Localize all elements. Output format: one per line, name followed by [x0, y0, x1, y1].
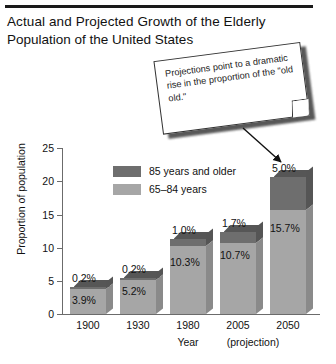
chart-plot-area: 25 20 15 10 5 0 Proportion of population…	[0, 0, 336, 364]
bar-1980-seg-85plus	[170, 239, 206, 246]
y-tick-label-20: 20	[24, 175, 54, 187]
y-axis-line	[62, 148, 63, 315]
y-tick-mark-10	[57, 248, 62, 249]
y-tick-mark-0	[57, 314, 62, 315]
bar-2005	[220, 232, 256, 314]
y-tick-label-15: 15	[24, 209, 54, 221]
legend-swatch-65-84	[113, 184, 141, 195]
bar-2050-label-85plus: 5.0%	[272, 162, 296, 174]
y-tick-label-5: 5	[24, 275, 54, 287]
bar-1900-label-65to84: 3.9%	[72, 294, 96, 306]
y-tick-label-25: 25	[24, 142, 54, 154]
legend-label-85-plus: 85 years and older	[149, 165, 236, 177]
bar-1900-label-85plus: 0.2%	[72, 272, 96, 284]
figure-root: Actual and Projected Growth of the Elder…	[0, 0, 336, 364]
x-axis-line	[62, 314, 320, 315]
y-tick-label-0: 0	[24, 308, 54, 320]
y-tick-label-10: 10	[24, 242, 54, 254]
y-axis-label: Proportion of population	[15, 129, 27, 269]
bar-1980-label-65to84: 10.3%	[170, 256, 200, 268]
y-tick-mark-25	[57, 148, 62, 149]
x-axis-projection-note: (projection)	[208, 336, 298, 348]
y-tick-mark-5	[57, 281, 62, 282]
x-tick-label-2050: 2050	[258, 319, 318, 331]
bar-1980	[170, 239, 206, 314]
bar-2050-seg-85plus	[270, 177, 306, 210]
bar-2050-label-65to84: 15.7%	[270, 222, 300, 234]
bar-2005-label-65to84: 10.7%	[220, 249, 250, 261]
y-tick-mark-15	[57, 215, 62, 216]
bar-2005-seg-85plus	[220, 232, 256, 243]
bar-2050	[270, 177, 306, 314]
bar-1980-label-85plus: 1.0%	[172, 224, 196, 236]
legend-label-65-84: 65–84 years	[149, 183, 207, 195]
bar-1930-label-85plus: 0.2%	[122, 263, 146, 275]
legend-swatch-85-plus	[113, 166, 141, 177]
bar-2005-label-85plus: 1.7%	[222, 217, 246, 229]
y-tick-mark-20	[57, 181, 62, 182]
bar-1930-label-65to84: 5.2%	[122, 285, 146, 297]
